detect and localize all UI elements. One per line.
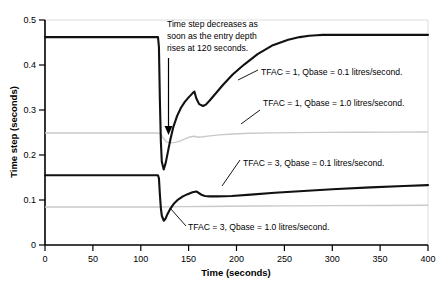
series-label-text-tfac1-q10: TFAC = 1, Qbase = 1.0 litres/second.	[263, 98, 404, 108]
y-tick-label-0.4: 0.4	[23, 60, 36, 70]
y-axis-title: Time step (seconds)	[8, 86, 19, 178]
x-tick-label-400: 400	[420, 254, 435, 264]
x-axis-title: Time (seconds)	[201, 267, 271, 278]
chart-container: 0 0.1 0.2 0.3 0.4 0.5 0 50 100 150 200	[0, 0, 445, 281]
annotation-line-1: Time step decreases as	[167, 19, 258, 29]
series-label-text-tfac3-q01: TFAC = 3, Qbase = 0.1 litres/second.	[243, 158, 384, 168]
x-tick-label-100: 100	[133, 254, 148, 264]
series-label-text-tfac3-q10: TFAC = 3, Qbase = 1.0 litres/second.	[188, 222, 329, 232]
series-label-text-tfac1-q01: TFAC = 1, Qbase = 0.1 litres/second.	[261, 67, 402, 77]
y-tick-label-0.5: 0.5	[23, 15, 36, 25]
y-tick-label-0.1: 0.1	[23, 195, 36, 205]
x-tick-label-50: 50	[88, 254, 98, 264]
annotation-line-2: soon as the entry depth	[167, 31, 257, 41]
x-tick-label-200: 200	[229, 254, 244, 264]
y-tick-label-0.3: 0.3	[23, 105, 36, 115]
x-tick-label-350: 350	[373, 254, 388, 264]
x-tick-label-0: 0	[42, 254, 47, 264]
x-tick-label-250: 250	[277, 254, 292, 264]
annotation-line-3: rises at 120 seconds.	[167, 43, 248, 53]
chart-svg: 0 0.1 0.2 0.3 0.4 0.5 0 50 100 150 200	[0, 0, 445, 281]
y-tick-label-0: 0	[31, 240, 36, 250]
x-tick-label-300: 300	[325, 254, 340, 264]
y-tick-label-0.2: 0.2	[23, 150, 36, 160]
x-tick-label-150: 150	[181, 254, 196, 264]
